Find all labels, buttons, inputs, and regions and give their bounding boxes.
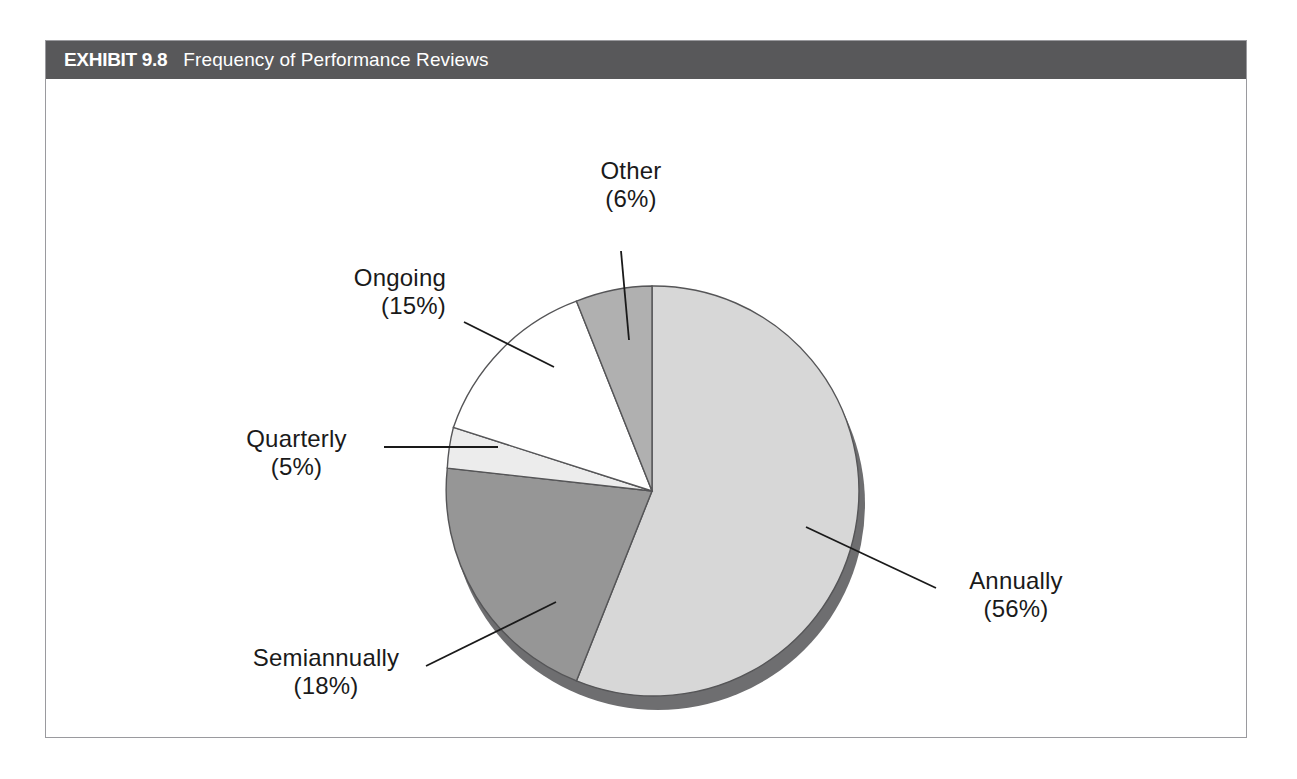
slice-label-quarterly-name: Quarterly <box>246 425 347 452</box>
slice-label-semiannually: Semiannually (18%) <box>231 644 421 701</box>
slice-label-ongoing-pct: (15%) <box>286 292 446 320</box>
exhibit-number-label: EXHIBIT 9.8 <box>64 49 167 71</box>
slice-label-semiannually-pct: (18%) <box>231 672 421 700</box>
slice-label-annually: Annually (56%) <box>941 567 1091 624</box>
exhibit-frame: EXHIBIT 9.8 Frequency of Performance Rev… <box>45 40 1247 738</box>
slice-label-ongoing: Ongoing (15%) <box>286 264 446 321</box>
exhibit-header-bar: EXHIBIT 9.8 Frequency of Performance Rev… <box>46 41 1246 79</box>
pie-chart-area: Other (6%) Ongoing (15%) Quarterly (5%) … <box>46 79 1246 738</box>
slice-label-other-name: Other <box>600 157 661 184</box>
slice-label-semiannually-name: Semiannually <box>253 644 399 671</box>
exhibit-title: Frequency of Performance Reviews <box>183 49 488 71</box>
slice-label-annually-pct: (56%) <box>941 595 1091 623</box>
slice-label-ongoing-name: Ongoing <box>354 264 446 291</box>
slice-label-quarterly-pct: (5%) <box>214 453 379 481</box>
slice-label-other: Other (6%) <box>566 157 696 214</box>
slice-label-annually-name: Annually <box>969 567 1063 594</box>
slice-label-other-pct: (6%) <box>566 185 696 213</box>
slice-label-quarterly: Quarterly (5%) <box>214 425 379 482</box>
